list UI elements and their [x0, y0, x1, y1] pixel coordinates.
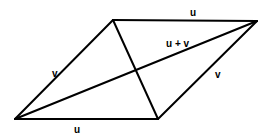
vector-parallelogram-diagram: u u + v v v u — [0, 0, 271, 140]
label-u-plus-v: u + v — [166, 38, 190, 49]
label-right-v: v — [215, 69, 221, 80]
label-left-v: v — [52, 68, 58, 79]
label-bottom-u: u — [74, 124, 80, 135]
diagonal-other — [113, 20, 158, 119]
edge-top-u — [113, 20, 257, 21]
edge-right-v — [158, 21, 257, 119]
label-top-u: u — [190, 7, 196, 18]
diagram-canvas: u u + v v v u — [0, 0, 271, 140]
edge-left-v — [15, 20, 113, 119]
